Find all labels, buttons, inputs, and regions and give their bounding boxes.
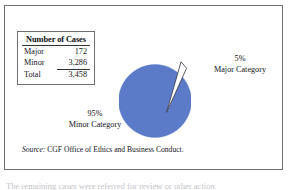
table-row-total: Total 3,458: [22, 69, 90, 80]
pie-label-minor-category: 95% Minor Category: [49, 109, 141, 131]
page-body-text-sliver: The remaining cases were referred for re…: [6, 181, 284, 190]
cases-table-body: Major 172 Minor 3,286 Total 3,458: [22, 47, 90, 80]
major-category-name: Major Category: [201, 65, 279, 76]
pie-label-major-category: 5% Major Category: [201, 54, 279, 76]
number-of-cases-table: Number of Cases Major 172 Minor 3,286 To…: [17, 31, 95, 85]
major-percent: 5%: [201, 54, 279, 65]
row-value-minor: 3,286: [57, 58, 90, 69]
minor-category-name: Minor Category: [49, 120, 141, 131]
row-value-total: 3,458: [57, 69, 90, 80]
figure-frame: Number of Cases Major 172 Minor 3,286 To…: [4, 5, 283, 170]
source-note: Source: CGF Office of Ethics and Busines…: [22, 145, 184, 154]
source-prefix: Source:: [22, 145, 45, 154]
table-title: Number of Cases: [22, 35, 90, 46]
row-value-major: 172: [57, 47, 90, 58]
table-row: Minor 3,286: [22, 58, 90, 69]
row-label-major: Major: [22, 47, 57, 58]
row-label-total: Total: [22, 69, 57, 80]
table-row: Major 172: [22, 47, 90, 58]
row-label-minor: Minor: [22, 58, 57, 69]
source-text: CGF Office of Ethics and Business Conduc…: [47, 145, 183, 154]
minor-percent: 95%: [49, 109, 141, 120]
